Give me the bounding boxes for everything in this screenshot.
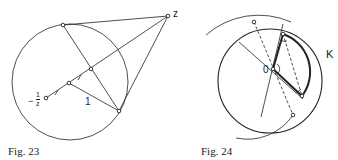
diameter-line (239, 42, 303, 99)
outer-arc (206, 15, 291, 35)
label-neg-inv-z-num: 1 (36, 91, 40, 100)
caption-fig-24: Fig. 24 (201, 145, 232, 157)
circle-K (218, 29, 322, 133)
caption-fig-23: Fig. 23 (8, 145, 39, 157)
figures-canvas (0, 0, 338, 160)
label-origin: 0 (263, 64, 269, 75)
line-to-z (46, 16, 168, 98)
point-sector-top (281, 32, 285, 36)
point-bottom (117, 109, 121, 113)
figure-24 (206, 15, 322, 139)
label-K: K (326, 48, 333, 60)
tangent-line-bottom (119, 16, 168, 111)
point-origin (271, 67, 275, 71)
outer-arc-bottom (236, 115, 293, 139)
point-sector-bottom (300, 94, 304, 98)
point-neg-inv-z (44, 96, 48, 100)
point-z (166, 14, 170, 18)
point-center (67, 81, 71, 85)
radius-line (69, 83, 119, 111)
point-top (61, 23, 65, 27)
label-one: 1 (85, 96, 91, 107)
point-bottom (291, 113, 295, 117)
label-z: z (173, 8, 178, 19)
point-mid (89, 67, 93, 71)
label-neg-sign: − (28, 96, 33, 106)
figure-23 (12, 14, 170, 140)
tangent-line-top (63, 16, 168, 25)
point-top (252, 20, 256, 24)
label-neg-inv-z-den: z (36, 100, 40, 108)
